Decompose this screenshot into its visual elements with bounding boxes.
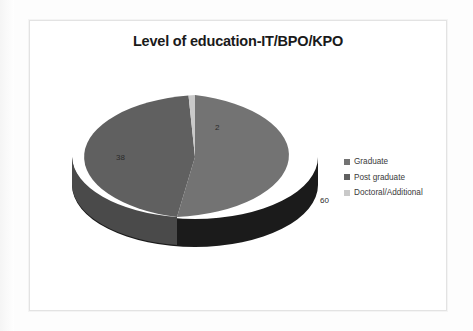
- legend-swatch-icon: [344, 159, 350, 165]
- pie-chart-svg: [69, 95, 322, 257]
- pie-chart: 2 38 60: [69, 95, 322, 257]
- scan-edge-gradient: [0, 0, 14, 331]
- legend-item-doctoral-additional[interactable]: Doctoral/Additional: [344, 188, 444, 197]
- data-label-post-graduate: 38: [116, 153, 125, 162]
- legend-item-graduate[interactable]: Graduate: [344, 157, 444, 166]
- legend-item-post-graduate[interactable]: Post graduate: [344, 173, 444, 182]
- data-label-doctoral: 2: [215, 123, 219, 132]
- legend-swatch-icon: [344, 174, 350, 180]
- chart-title: Level of education-IT/BPO/KPO: [30, 33, 446, 49]
- legend-swatch-icon: [344, 190, 350, 196]
- legend-item-label: Post graduate: [354, 173, 405, 182]
- chart-legend: Graduate Post graduate Doctoral/Addition…: [344, 157, 444, 204]
- legend-item-label: Doctoral/Additional: [354, 188, 423, 197]
- pie-top-face: [84, 95, 289, 217]
- legend-item-label: Graduate: [354, 157, 388, 166]
- data-label-graduate: 60: [320, 196, 329, 205]
- screenshot-root: Level of education-IT/BPO/KPO: [0, 0, 473, 331]
- chart-frame: Level of education-IT/BPO/KPO: [29, 20, 447, 311]
